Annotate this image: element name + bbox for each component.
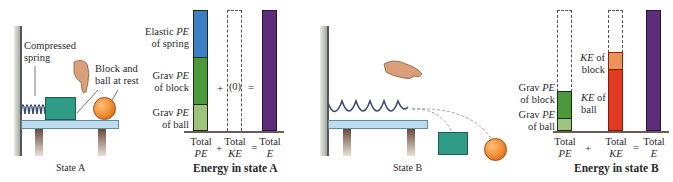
table-leg-left-b [343, 129, 351, 156]
label-ke-ball: KE of ball [581, 92, 611, 116]
label-ke-block: KE of block [575, 52, 605, 76]
label-grav-pe-block-b: Grav PE of block [505, 82, 555, 106]
table-leg-right-b [407, 129, 415, 156]
xlabel-total-e-b: TotalE [639, 136, 669, 160]
seg-ke-ball [608, 69, 623, 131]
label-grav-pe-ball-b: Grav PE of ball [505, 109, 555, 133]
falling-ball [484, 138, 507, 161]
chart-title-b: Energy in state B [574, 162, 659, 174]
seg-grav-pe-block-b [557, 91, 572, 119]
bar-total-ke-b [608, 52, 623, 131]
bar-total-pe-b-outline [557, 10, 572, 92]
baseline-b [553, 131, 669, 133]
plus-sign-b: + [585, 142, 591, 154]
seg-ke-block [608, 52, 623, 70]
xlabel-total-pe-b: TotalPE [550, 136, 580, 160]
seg-grav-pe-ball-b [557, 118, 572, 131]
state-b-label: State B [393, 162, 422, 173]
bar-total-e-b [646, 10, 661, 131]
bar-total-pe-b [557, 91, 572, 131]
table-top-b [328, 120, 428, 129]
xlabel-total-ke-b: TotalKE [601, 136, 631, 160]
falling-block [438, 132, 468, 155]
bar-total-ke-b-outline [608, 10, 623, 53]
